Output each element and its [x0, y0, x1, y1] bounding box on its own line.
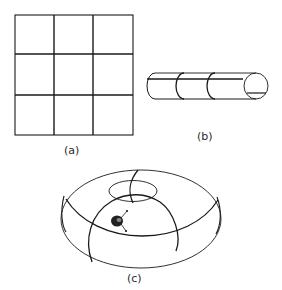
cylinder-ring-1: [176, 73, 184, 99]
torus-meridian-left: [62, 196, 66, 232]
panel-b-cylinder: [147, 73, 268, 99]
panel-label-b: (b): [197, 131, 213, 142]
creature-antenna-2: [121, 224, 126, 231]
torus-creature: [111, 210, 128, 232]
torus-parallel-curve: [66, 199, 218, 236]
creature-body-highlight: [117, 218, 122, 222]
creature-antenna-1: [121, 211, 127, 218]
diagram-canvas: [0, 0, 282, 290]
panel-label-a: (a): [64, 145, 79, 156]
creature-antenna-tip-1: [126, 210, 128, 212]
panel-c-torus: [61, 170, 221, 268]
torus-meridian-top: [130, 170, 138, 203]
panel-a-grid: [15, 15, 133, 135]
cylinder-left-end: [147, 73, 155, 99]
cylinder-right-end: [244, 73, 268, 99]
creature-antenna-tip-2: [125, 230, 127, 232]
cylinder-ring-2: [207, 73, 215, 99]
panel-label-c: (c): [127, 273, 142, 284]
grid-border: [15, 15, 133, 135]
